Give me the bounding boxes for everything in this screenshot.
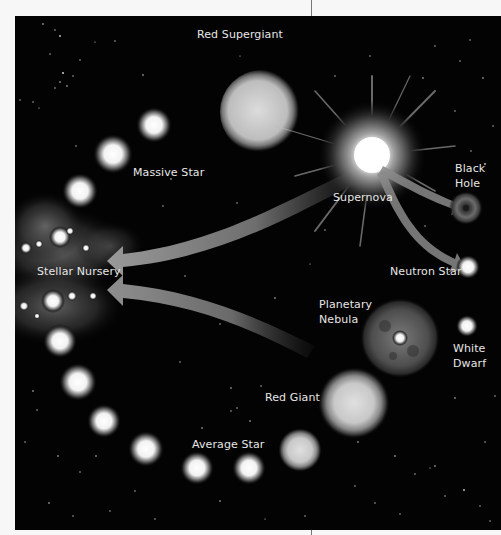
white-dwarf-sphere bbox=[456, 315, 478, 337]
label-neutron-star: Neutron Star bbox=[390, 264, 462, 279]
red-supergiant-sphere bbox=[220, 70, 304, 154]
label-stellar-nursery: Stellar Nursery bbox=[37, 264, 121, 279]
label-red-supergiant: Red Supergiant bbox=[197, 27, 283, 42]
label-white-dwarf-line2: Dwarf bbox=[453, 356, 486, 371]
label-supernova: Supernova bbox=[333, 190, 393, 205]
label-massive-star: Massive Star bbox=[133, 165, 204, 180]
recycle-arrow-from-supernova bbox=[107, 174, 355, 276]
label-planetary-nebula-line1: Planetary bbox=[319, 297, 372, 312]
label-planetary-nebula: Planetary Nebula bbox=[319, 297, 372, 327]
label-black-hole: Black Hole bbox=[455, 161, 485, 191]
label-white-dwarf: White Dwarf bbox=[453, 341, 486, 371]
massive-star-sequence bbox=[62, 107, 172, 209]
label-red-giant: Red Giant bbox=[265, 390, 320, 405]
recycle-arrow-from-nebula bbox=[107, 275, 315, 358]
label-planetary-nebula-line2: Nebula bbox=[319, 312, 372, 327]
label-black-hole-line2: Hole bbox=[455, 176, 485, 191]
column-divider-bottom bbox=[311, 530, 312, 535]
label-white-dwarf-line1: White bbox=[453, 341, 486, 356]
star-lifecycle-diagram: Red Supergiant Massive Star Supernova Bl… bbox=[15, 16, 501, 530]
label-black-hole-line1: Black bbox=[455, 161, 485, 176]
column-divider-top bbox=[311, 0, 312, 17]
red-giant-sphere bbox=[318, 367, 390, 439]
label-average-star: Average Star bbox=[192, 437, 264, 452]
